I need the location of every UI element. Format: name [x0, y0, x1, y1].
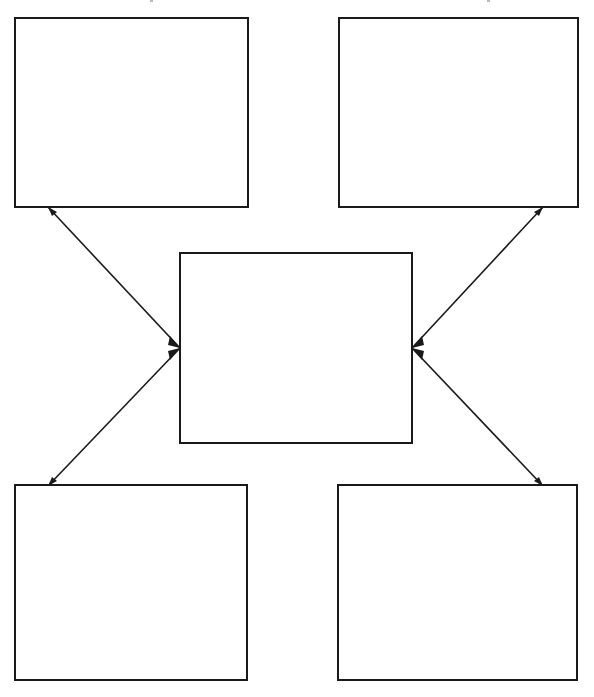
node-box-bottom-right[interactable]	[338, 485, 577, 680]
arrow-head-center-left-upper	[168, 336, 180, 348]
arrow-head-center-left-lower	[168, 348, 180, 360]
node-box-top-right[interactable]	[339, 18, 578, 207]
arrow-head-center-right-lower	[412, 348, 424, 360]
node-group	[15, 18, 578, 680]
organizer-canvas	[0, 0, 594, 697]
connector-center-to-bottom-right[interactable]	[412, 348, 543, 486]
connector-center-to-top-right[interactable]	[412, 207, 543, 348]
connector-center-to-bottom-left[interactable]	[48, 348, 180, 486]
connector-center-to-top-left[interactable]	[48, 207, 180, 348]
concept-map-diagram	[0, 0, 594, 697]
node-box-center[interactable]	[180, 253, 412, 443]
node-box-bottom-left[interactable]	[15, 485, 247, 680]
node-box-top-left[interactable]	[15, 18, 248, 207]
arrow-head-center-right-upper	[412, 336, 424, 348]
